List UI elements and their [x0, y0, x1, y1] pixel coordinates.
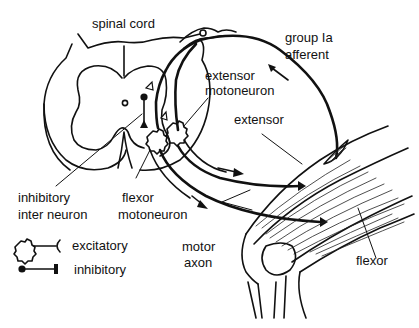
legend-item-excitatory: excitatory — [14, 238, 128, 264]
excitatory-synapse-icon — [14, 239, 36, 264]
legend: excitatory inhibitory — [14, 238, 128, 277]
legend-label-inhibitory: inhibitory — [74, 262, 127, 277]
arrow-head-icon — [233, 168, 244, 177]
label-extensor-motoneuron-1: extensor — [205, 68, 256, 83]
label-inhibitory-interneuron-2: inter neuron — [18, 207, 87, 222]
label-group-ia: group Ia — [285, 30, 333, 45]
neurons — [140, 82, 188, 154]
spinal-cord-cross-section — [44, 34, 210, 170]
label-afferent: afferent — [285, 47, 329, 62]
label-extensor-motoneuron-2: motoneuron — [205, 83, 274, 98]
legend-label-excitatory: excitatory — [72, 238, 128, 253]
label-axon: axon — [184, 255, 212, 270]
leader-lines — [56, 98, 376, 258]
label-inhibitory-interneuron-1: inhibitory — [18, 190, 71, 205]
stretch-reflex-diagram: spinal cord group Ia afferent extensor m… — [0, 0, 419, 328]
label-flexor-motoneuron-2: motoneuron — [118, 207, 187, 222]
excitatory-terminal-icon — [146, 82, 153, 90]
label-extensor-muscle: extensor — [234, 112, 285, 127]
label-motor: motor — [182, 239, 216, 254]
label-flexor-motoneuron-1: flexor — [122, 190, 154, 205]
axon-terminal-icon — [298, 181, 306, 191]
label-spinal-cord: spinal cord — [92, 16, 155, 31]
legend-item-inhibitory: inhibitory — [18, 262, 126, 277]
inhibitory-terminal-icon — [140, 120, 148, 128]
label-flexor-muscle: flexor — [356, 253, 388, 268]
